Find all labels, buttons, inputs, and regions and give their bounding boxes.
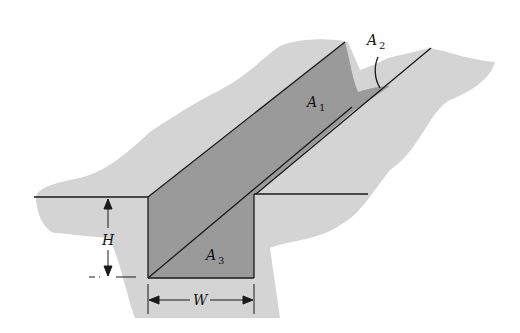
svg-text:3: 3	[218, 255, 224, 266]
label-a2: A 2	[365, 32, 385, 51]
trench-diagram: H W A 1 A 2 A 3	[0, 0, 520, 333]
svg-text:2: 2	[379, 40, 385, 51]
svg-text:1: 1	[319, 102, 325, 113]
svg-text:A: A	[365, 32, 377, 48]
svg-text:A: A	[305, 94, 317, 110]
height-label: H	[101, 232, 115, 248]
svg-text:A: A	[204, 247, 216, 263]
width-label: W	[193, 292, 209, 308]
